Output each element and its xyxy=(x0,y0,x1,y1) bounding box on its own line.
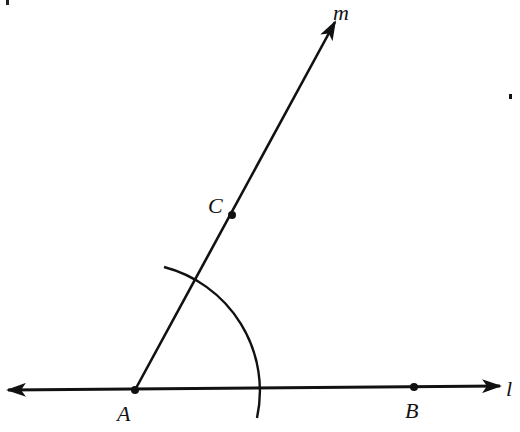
point-c-dot xyxy=(228,211,236,219)
ray-m xyxy=(135,22,335,390)
stray-mark xyxy=(6,0,9,5)
label-point-a: A xyxy=(115,401,131,426)
label-ray-m: m xyxy=(333,0,349,25)
point-b-dot xyxy=(410,383,418,391)
line-l xyxy=(8,386,500,390)
label-line-l: l xyxy=(506,376,512,401)
label-point-b: B xyxy=(405,398,418,423)
geometry-diagram: A B C l m xyxy=(0,0,520,432)
compass-arc xyxy=(164,267,260,418)
point-a-dot xyxy=(131,386,139,394)
label-point-c: C xyxy=(208,193,223,218)
stray-dot xyxy=(509,94,512,99)
